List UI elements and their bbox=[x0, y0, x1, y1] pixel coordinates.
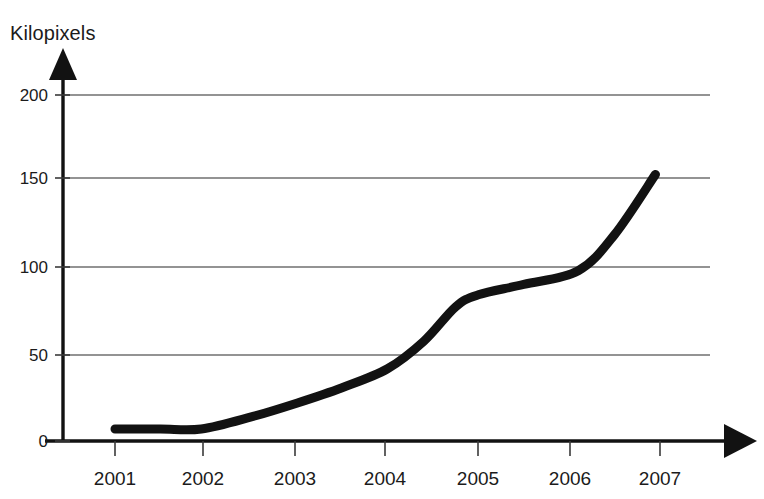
gridlines-horizontal bbox=[63, 95, 710, 355]
y-tick-label-50: 50 bbox=[2, 347, 48, 364]
x-tick-label-2006: 2006 bbox=[535, 469, 605, 488]
x-tick-label-2003: 2003 bbox=[260, 469, 330, 488]
x-tick-label-2004: 2004 bbox=[350, 469, 420, 488]
x-tick-label-2005: 2005 bbox=[443, 469, 513, 488]
data-series-line bbox=[115, 174, 655, 429]
x-tick-label-2001: 2001 bbox=[80, 469, 150, 488]
y-tick-label-200: 200 bbox=[2, 87, 48, 104]
chart-plot-area bbox=[0, 0, 764, 499]
y-axis bbox=[49, 48, 77, 441]
x-tick-label-2002: 2002 bbox=[168, 469, 238, 488]
y-tick-label-100: 100 bbox=[2, 259, 48, 276]
x-tick-label-2007: 2007 bbox=[625, 469, 695, 488]
line-chart: Kilopixels bbox=[0, 0, 764, 499]
y-tick-label-0: 0 bbox=[2, 433, 48, 450]
x-axis-ticks bbox=[115, 441, 660, 456]
y-tick-label-150: 150 bbox=[2, 170, 48, 187]
